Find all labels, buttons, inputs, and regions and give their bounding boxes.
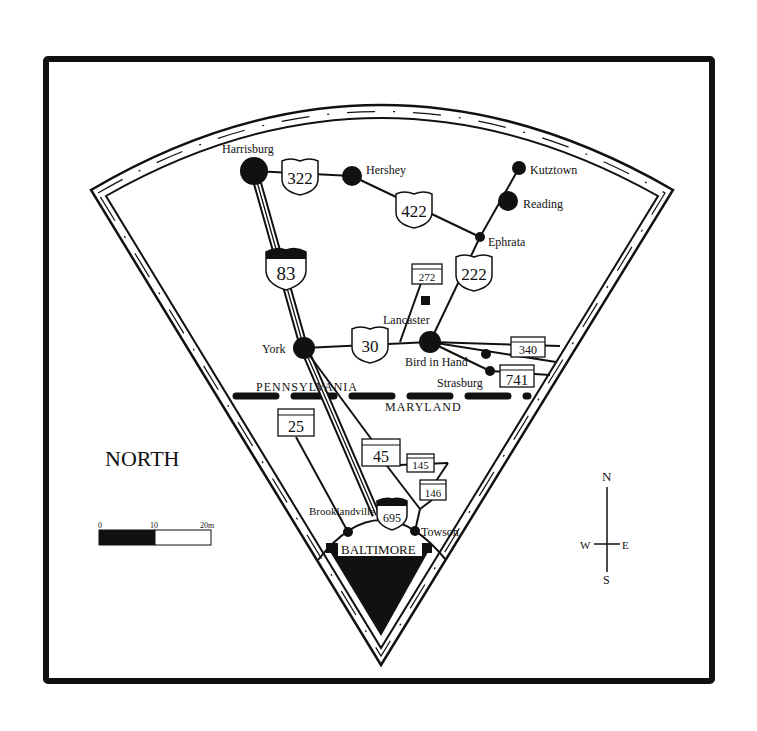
svg-text:145: 145 <box>412 459 429 471</box>
city-label-reading: Reading <box>523 197 563 211</box>
city-label-towson: Towson <box>421 525 459 539</box>
scale-bar: 0 10 20m <box>98 521 215 545</box>
baltimore-label: BALTIMORE <box>341 542 416 557</box>
svg-text:83: 83 <box>277 263 296 284</box>
shield-pa-741: 741 <box>500 365 534 388</box>
shield-pa-340: 340 <box>511 337 545 357</box>
landmark-square <box>421 296 430 305</box>
svg-text:340: 340 <box>519 343 537 357</box>
city-label-bird-in-hand: Bird in Hand <box>405 355 468 369</box>
map-title: NORTH <box>105 446 180 471</box>
shield-us-222: 222 <box>456 255 492 291</box>
svg-text:741: 741 <box>506 372 529 388</box>
map-canvas: Harrisburg Hershey Kutztown Reading Ephr… <box>0 0 757 731</box>
svg-text:E: E <box>622 539 629 551</box>
city-label-strasburg: Strasburg <box>437 376 483 390</box>
shield-us-30: 30 <box>352 327 388 363</box>
shield-us-422: 422 <box>396 192 432 228</box>
shield-md-145: 145 <box>407 454 434 472</box>
city-label-hershey: Hershey <box>366 163 406 177</box>
svg-text:695: 695 <box>383 511 401 525</box>
svg-text:322: 322 <box>287 169 313 188</box>
svg-text:S: S <box>603 573 610 587</box>
shield-i-695: 695 <box>377 498 407 530</box>
shield-pa-272: 272 <box>412 264 442 284</box>
city-label-ephrata: Ephrata <box>488 235 526 249</box>
svg-text:30: 30 <box>362 337 379 356</box>
svg-text:222: 222 <box>461 265 487 284</box>
compass-rose: N S W E <box>580 469 629 587</box>
svg-text:W: W <box>580 539 591 551</box>
svg-text:20m: 20m <box>200 521 215 530</box>
svg-text:N: N <box>602 469 612 484</box>
svg-text:146: 146 <box>425 487 442 499</box>
city-label-harrisburg: Harrisburg <box>222 142 274 156</box>
city-label-york: York <box>262 342 285 356</box>
shield-i-83: 83 <box>266 248 306 290</box>
shield-us-322: 322 <box>282 159 318 195</box>
shield-md-146: 146 <box>420 480 446 500</box>
state-label-maryland: MARYLAND <box>385 400 462 414</box>
city-label-kutztown: Kutztown <box>530 163 577 177</box>
svg-text:422: 422 <box>401 202 427 221</box>
city-label-lancaster: Lancaster <box>383 313 430 327</box>
svg-text:45: 45 <box>373 448 389 465</box>
shield-md-25: 25 <box>278 409 314 436</box>
state-label-pennsylvania: PENNSYLVANIA <box>256 380 358 394</box>
svg-text:25: 25 <box>288 418 304 435</box>
city-label-brooklandville: Brooklandville <box>309 505 375 517</box>
shield-md-45: 45 <box>362 439 400 466</box>
us-shields: 322 422 222 30 <box>282 159 492 363</box>
svg-text:272: 272 <box>419 271 436 283</box>
svg-text:10: 10 <box>150 521 158 530</box>
svg-text:0: 0 <box>98 521 102 530</box>
